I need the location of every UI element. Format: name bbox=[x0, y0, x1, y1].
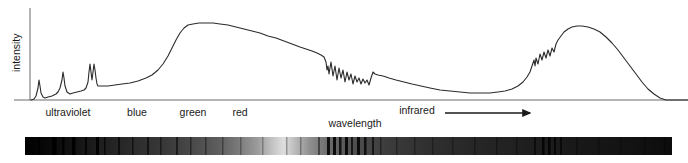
absorption-line bbox=[396, 137, 398, 155]
absorption-line bbox=[598, 137, 600, 155]
absorption-line bbox=[351, 137, 353, 155]
y-axis-label: intensity bbox=[10, 33, 22, 72]
absorption-line bbox=[496, 137, 498, 155]
absorption-line bbox=[222, 137, 224, 155]
absorption-line bbox=[85, 137, 87, 155]
absorption-line bbox=[72, 137, 76, 155]
band-label-ultraviolet: ultraviolet bbox=[46, 106, 91, 118]
spectrum-figure: intensity ultravioletbluegreenredinfrare… bbox=[0, 0, 688, 163]
absorption-line bbox=[318, 137, 320, 155]
band-label-blue: blue bbox=[127, 106, 147, 118]
spectrum-bar-group bbox=[25, 137, 672, 155]
absorption-line bbox=[542, 137, 545, 155]
absorption-line bbox=[644, 137, 646, 155]
band-label-infrared: infrared bbox=[399, 104, 435, 116]
absorption-line bbox=[38, 137, 40, 155]
absorption-line bbox=[132, 137, 134, 155]
absorption-line bbox=[620, 137, 622, 155]
absorption-line bbox=[205, 137, 207, 155]
absorption-line bbox=[554, 137, 556, 155]
absorption-line bbox=[327, 137, 330, 155]
absorption-line bbox=[176, 137, 178, 155]
absorption-line bbox=[240, 137, 242, 155]
x-axis-label: wavelength bbox=[327, 117, 381, 129]
absorption-line bbox=[300, 137, 302, 155]
spectrum-bar bbox=[25, 137, 672, 155]
absorption-line bbox=[104, 137, 106, 155]
absorption-line bbox=[372, 137, 374, 155]
absorption-line bbox=[286, 137, 288, 155]
absorption-line bbox=[62, 137, 65, 155]
absorption-line bbox=[147, 137, 149, 155]
absorption-line bbox=[96, 137, 99, 155]
absorption-line bbox=[432, 137, 434, 155]
absorption-line bbox=[516, 137, 518, 155]
absorption-line bbox=[560, 137, 562, 155]
absorption-line bbox=[160, 137, 162, 155]
absorption-line bbox=[333, 137, 336, 155]
absorption-line bbox=[474, 137, 476, 155]
absorption-line bbox=[664, 137, 666, 155]
band-label-red: red bbox=[232, 106, 247, 118]
absorption-line bbox=[548, 137, 551, 155]
absorption-line bbox=[118, 137, 120, 155]
absorption-line bbox=[576, 137, 578, 155]
absorption-line bbox=[28, 137, 31, 155]
absorption-line bbox=[364, 137, 367, 155]
absorption-line bbox=[414, 137, 416, 155]
spectral-intensity-curve bbox=[31, 23, 688, 100]
absorption-line bbox=[357, 137, 360, 155]
absorption-line bbox=[380, 137, 382, 155]
band-label-green: green bbox=[180, 106, 207, 118]
absorption-line bbox=[190, 137, 192, 155]
absorption-line bbox=[452, 137, 454, 155]
absorption-line bbox=[52, 137, 57, 155]
absorption-line bbox=[345, 137, 348, 155]
absorption-line bbox=[262, 137, 264, 155]
spectrum-svg: intensity ultravioletbluegreenredinfrare… bbox=[0, 0, 688, 163]
band-label-group: ultravioletbluegreenredinfrared bbox=[46, 104, 435, 118]
absorption-line bbox=[534, 137, 536, 155]
absorption-line bbox=[339, 137, 342, 155]
